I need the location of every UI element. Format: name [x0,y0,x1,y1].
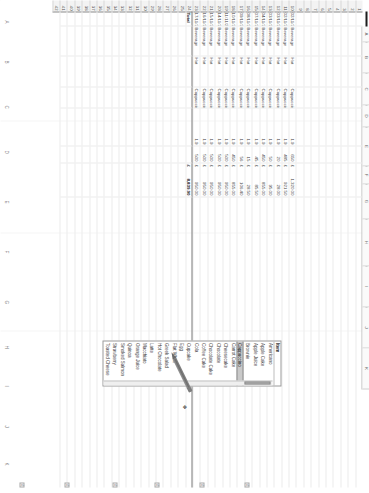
row-header-32[interactable]: 32 [126,0,133,11]
grid-cell[interactable] [127,56,133,87]
table-row[interactable] [162,11,169,487]
dropdown-item-carrot-cake[interactable]: Carrot Cake [228,341,235,385]
row-header-22[interactable]: 22 [199,0,206,11]
grid-cell[interactable] [341,11,347,26]
cell-type[interactable]: Hot [252,56,258,87]
grid-cell[interactable] [356,26,362,56]
grid-cell[interactable] [341,87,347,108]
grid-cell[interactable] [304,108,310,146]
cell-category[interactable]: Beverage [200,26,206,56]
cell-count[interactable]: 56 [237,146,243,163]
dropdown-item-toasted-cheese[interactable]: Toasted Cheese [103,341,110,385]
grid-cell[interactable] [348,108,354,146]
grid-cell[interactable] [104,11,110,26]
cell-category[interactable]: Beverage [230,26,236,56]
dropdown-item-apple-cake[interactable]: Apple Cake [258,341,265,385]
grid-cell[interactable] [289,197,295,487]
row-header-34[interactable]: 34 [111,0,118,11]
grid-cell[interactable] [97,108,103,146]
cell-item[interactable]: Cappuccino [289,87,295,108]
row-header-38[interactable]: 38 [81,0,88,11]
cell-amount[interactable]: £950.00 [215,163,221,197]
grid-cell[interactable] [97,26,103,56]
cell-count[interactable]: 450 [230,146,236,163]
cell-item[interactable]: Cappuccino [237,87,243,108]
cell-qty[interactable]: 1.9 [193,108,199,146]
cell-count[interactable]: 500 [193,146,199,163]
grid-cell[interactable] [82,87,88,108]
grid-cell[interactable] [341,197,347,487]
grid-cell[interactable] [97,87,103,108]
cell-date[interactable]: 02/11/2016 [289,11,295,26]
grid-cell[interactable] [333,146,339,163]
column-header-k[interactable]: K [362,348,369,389]
row-header-30[interactable]: 30 [140,0,147,11]
grid-cell[interactable] [296,87,302,108]
grid-cell[interactable] [296,146,302,163]
grid-cell[interactable] [319,146,325,163]
table-row[interactable] [89,11,96,487]
grid-cell[interactable] [149,11,155,26]
row-header-37[interactable]: 37 [89,0,96,11]
row-header-33[interactable]: 33 [118,0,125,11]
cell-date[interactable]: 03/11/2016 [267,11,273,26]
cell-category[interactable]: Beverage [289,26,295,56]
grid-cell[interactable] [67,146,73,163]
grid-cell[interactable] [356,11,362,26]
grid-cell[interactable] [67,197,73,487]
cell-qty[interactable]: 1.9 [274,108,280,146]
grid-cell[interactable] [141,163,147,197]
cell-type[interactable]: Hot [289,56,295,87]
table-row[interactable] [111,11,118,487]
dropdown-items[interactable]: AmericanoApple CakeApple JuiceBrownieCap… [103,341,273,385]
grid-cell[interactable] [82,146,88,163]
grid-cell[interactable] [304,87,310,108]
cell-type[interactable]: Hot [282,56,288,87]
grid-cell[interactable] [178,87,184,108]
grid-cell[interactable] [348,146,354,163]
table-row[interactable] [347,11,354,487]
cell-date[interactable]: 17/11/2016 [193,11,199,26]
row-header-17[interactable]: 17 [236,0,243,11]
grid-cell[interactable] [104,108,110,146]
grid-cell[interactable] [178,56,184,87]
table-row[interactable] [170,11,177,487]
row-header-36[interactable]: 36 [96,0,103,11]
grid-cell[interactable] [311,26,317,56]
grid-cell[interactable] [119,56,125,87]
grid-cell[interactable] [67,11,73,26]
column-header-i[interactable]: I [362,266,369,307]
grid-cell[interactable] [112,87,118,108]
cell-type[interactable]: Hot [237,56,243,87]
grid-cell[interactable] [163,146,169,163]
grid-cell[interactable] [119,163,125,197]
grid-cell[interactable] [341,163,347,197]
grid-cell[interactable] [326,108,332,146]
grid-cell[interactable] [127,163,133,197]
grid-cell[interactable] [296,26,302,56]
table-row[interactable] [148,11,155,487]
grid-cell[interactable] [171,163,177,197]
grid-cell[interactable] [119,146,125,163]
grid-cell[interactable] [163,56,169,87]
cell-item[interactable]: Cappuccino [193,87,199,108]
grid-cell[interactable] [90,163,96,197]
grid-cell[interactable] [127,26,133,56]
row-header-1[interactable]: 1 [355,0,362,11]
grid-cell[interactable] [171,108,177,146]
grid-cell[interactable] [60,56,66,87]
cell-qty[interactable]: 1.9 [208,108,214,146]
grid-cell[interactable] [104,146,110,163]
grid-cell[interactable] [304,11,310,26]
grid-cell[interactable] [356,146,362,163]
grid-cell[interactable] [127,87,133,108]
grid-cell[interactable] [97,163,103,197]
cell-amount[interactable]: £950.00 [223,163,229,197]
row-header-18[interactable]: 18 [229,0,236,11]
table-row[interactable]: 09/11/2016BeverageHotCappuccino1.956£106… [236,11,243,487]
cell-amount[interactable]: £28.00 [274,163,280,197]
grid-cell[interactable] [186,56,192,87]
grid-cell[interactable] [341,26,347,56]
grid-cell[interactable] [319,197,325,487]
row-header-6[interactable]: 6 [318,0,325,11]
